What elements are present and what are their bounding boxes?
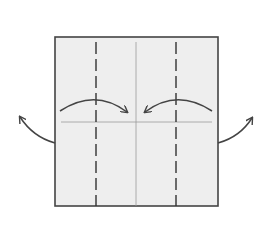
paper-square <box>55 37 218 206</box>
unfold-right-out-arrow-icon <box>218 118 252 143</box>
origami-diagram <box>0 0 265 229</box>
unfold-left-out-arrow-icon <box>20 117 55 143</box>
